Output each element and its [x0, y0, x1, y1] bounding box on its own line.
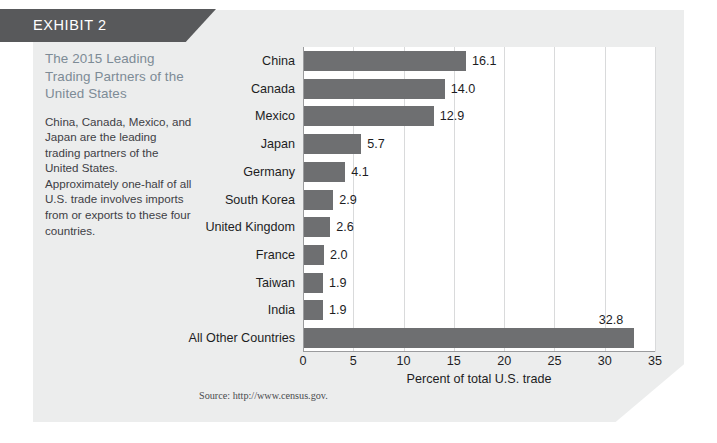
x-tick-label: 35: [648, 354, 662, 368]
bar: [304, 273, 323, 293]
category-label: All Other Countries: [189, 331, 295, 345]
bar-value-label: 16.1: [472, 54, 497, 68]
bar-value-label: 32.8: [599, 313, 624, 327]
bar-value-label: 1.9: [329, 276, 347, 290]
bar: [304, 162, 345, 182]
category-label: United Kingdom: [205, 220, 295, 234]
bar-value-label: 1.9: [329, 303, 347, 317]
bar-value-label: 2.6: [336, 220, 354, 234]
exhibit-description: China, Canada, Mexico, and Japan are the…: [45, 114, 193, 239]
category-label: Mexico: [255, 109, 295, 123]
x-axis-label: Percent of total U.S. trade: [303, 372, 655, 386]
bar: [304, 190, 333, 210]
bar-value-label: 2.9: [339, 193, 357, 207]
bar-value-label: 2.0: [330, 248, 348, 262]
bar: [304, 300, 323, 320]
bar-value-label: 14.0: [451, 82, 476, 96]
gridline: [655, 47, 656, 352]
chart-bar-row: United Kingdom2.6: [303, 217, 655, 237]
x-tick-label: 20: [497, 354, 511, 368]
chart-bar-row: Japan5.7: [303, 134, 655, 154]
bar: [304, 217, 330, 237]
bar: [304, 106, 434, 126]
x-tick-label: 5: [350, 354, 357, 368]
category-label: France: [256, 248, 295, 262]
chart-bar-row: Taiwan1.9: [303, 273, 655, 293]
chart-plot-area: China16.1Canada14.0Mexico12.9Japan5.7Ger…: [303, 47, 655, 352]
bar: [304, 328, 634, 348]
category-label: Canada: [251, 82, 295, 96]
exhibit-title: The 2015 Leading Trading Partners of the…: [45, 50, 193, 103]
bar: [304, 245, 324, 265]
chart-bar-row: France2.0: [303, 245, 655, 265]
x-tick-label: 10: [397, 354, 411, 368]
exhibit-figure: EXHIBIT 2 The 2015 Leading Trading Partn…: [0, 0, 717, 443]
chart-bar-row: Germany4.1: [303, 162, 655, 182]
x-tick-label: 25: [547, 354, 561, 368]
category-label: China: [262, 54, 295, 68]
sidebar-text-panel: The 2015 Leading Trading Partners of the…: [45, 50, 193, 238]
chart-bar-row: South Korea2.9: [303, 190, 655, 210]
category-label: Japan: [261, 137, 295, 151]
source-note: Source: http://www.census.gov.: [199, 390, 328, 401]
bar-value-label: 12.9: [440, 109, 465, 123]
bar: [304, 51, 466, 71]
chart-bar-row: Canada14.0: [303, 79, 655, 99]
x-tick-label: 0: [299, 354, 306, 368]
x-axis-line: [303, 351, 655, 352]
bar-value-label: 5.7: [367, 137, 385, 151]
exhibit-banner-label: EXHIBIT 2: [33, 17, 107, 33]
bar: [304, 134, 361, 154]
category-label: Taiwan: [256, 276, 295, 290]
bar: [304, 79, 445, 99]
chart-bar-row: Mexico12.9: [303, 106, 655, 126]
category-label: India: [268, 303, 295, 317]
x-tick-label: 30: [598, 354, 612, 368]
category-label: Germany: [243, 165, 295, 179]
bar-value-label: 4.1: [351, 165, 369, 179]
chart-bar-row: All Other Countries32.8: [303, 328, 655, 348]
chart-bar-row: China16.1: [303, 51, 655, 71]
category-label: South Korea: [225, 193, 295, 207]
x-tick-label: 15: [447, 354, 461, 368]
